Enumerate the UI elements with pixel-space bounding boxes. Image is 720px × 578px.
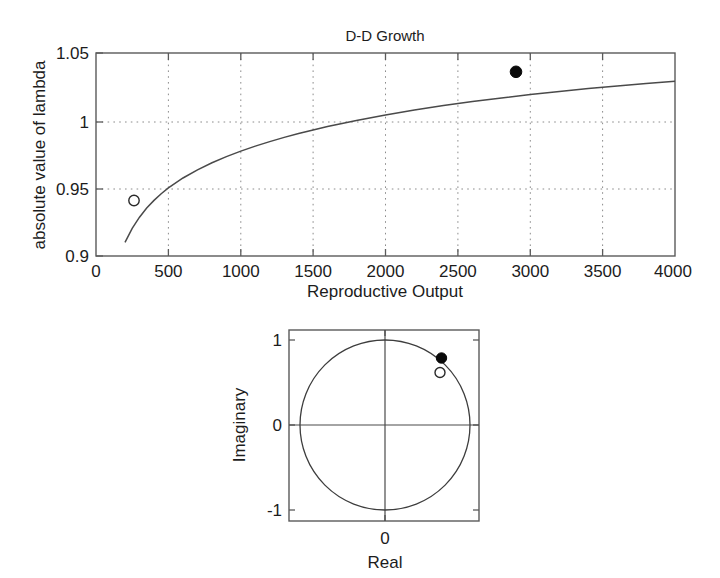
xtick-label-500: 500 [154, 262, 182, 281]
upper-plot-filled-circle-marker [510, 66, 522, 78]
xtick-label-2000: 2000 [367, 262, 405, 281]
lower-plot-yaxis-label: Imaginary [230, 387, 249, 462]
ytick-label-0-95: 0.95 [56, 180, 89, 199]
upper-plot-xaxis-label: Reproductive Output [307, 282, 463, 301]
xtick-label-3500: 3500 [584, 262, 622, 281]
xtick-label-2500: 2500 [439, 262, 477, 281]
figure-canvas: D-D Growth [0, 0, 720, 578]
ytick-label-0: 0 [273, 416, 282, 435]
xtick-label-0: 0 [91, 262, 100, 281]
xtick-label-1500: 1500 [294, 262, 332, 281]
ytick-label-1: 1 [80, 113, 89, 132]
lower-plot-filled-circle-marker [436, 353, 446, 363]
xtick-label-3000: 3000 [511, 262, 549, 281]
lower-plot-group: 1 0 -1 0 Real Imaginary [230, 330, 479, 572]
xtick-label-4000: 4000 [654, 262, 692, 281]
ytick-label-1: 1 [273, 331, 282, 350]
xtick-label-1000: 1000 [222, 262, 260, 281]
ytick-label-0-9: 0.9 [65, 247, 89, 266]
lambda-growth-curve [125, 81, 675, 242]
ytick-label-1-05: 1.05 [56, 44, 89, 63]
upper-plot-yticks [96, 53, 103, 256]
ytick-label-neg-1: -1 [267, 501, 282, 520]
lower-plot-xaxis-label: Real [368, 553, 403, 572]
upper-plot-ytick-labels: 1.05 1 0.95 0.9 [56, 44, 89, 266]
upper-plot-title: D-D Growth [345, 27, 424, 44]
lower-plot-open-circle-marker [435, 368, 445, 378]
upper-plot-yaxis-label: absolute value of lambda [30, 60, 49, 250]
lower-plot-ytick-labels: 1 0 -1 [267, 331, 282, 520]
upper-plot-group: D-D Growth [30, 27, 692, 301]
upper-plot-xtick-labels: 0 500 1000 1500 2000 2500 3000 3500 4000 [91, 262, 692, 281]
upper-plot-open-circle-marker [129, 195, 139, 205]
lower-plot-xtick-label-0: 0 [380, 529, 389, 548]
